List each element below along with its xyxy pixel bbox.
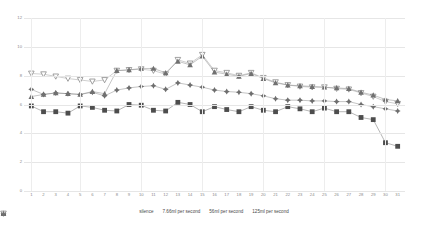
legend-label: 125ml per second [252, 210, 289, 215]
data-point-plus-diamond [163, 86, 169, 92]
data-point-filled-square [273, 109, 278, 114]
gridline-vertical [80, 18, 81, 191]
x-axis-tick-label: 4 [67, 193, 69, 197]
chart-legend: silence7.66ml per second56ml per second1… [0, 210, 428, 215]
series-56ml-per-second [29, 52, 401, 106]
data-point-plus-diamond [126, 85, 132, 91]
x-axis-tick-label: 18 [237, 193, 242, 197]
data-point-plus-diamond [175, 80, 181, 86]
data-point-filled-square [151, 108, 156, 113]
legend-label: 7.66ml per second [163, 210, 201, 215]
x-axis-tick-label: 11 [151, 193, 155, 197]
gridline-vertical [324, 18, 325, 191]
x-axis-tick-label: 1 [30, 193, 32, 197]
data-point-filled-square [53, 109, 58, 114]
data-point-filled-square [310, 109, 315, 114]
data-point-filled-square [102, 108, 107, 113]
data-point-filled-square [334, 109, 339, 114]
chart-container: 024681012 123456789101112131415161718192… [0, 0, 428, 236]
data-point-filled-square [346, 109, 351, 114]
gridline-vertical [385, 18, 386, 191]
data-point-plus-diamond [236, 89, 242, 95]
data-point-plus-diamond [224, 89, 230, 95]
x-axis-tick-label: 19 [249, 193, 254, 197]
x-axis-labels: 1234567891011121314151617181920212223242… [24, 193, 405, 203]
data-point-filled-square [371, 117, 376, 122]
x-axis-tick-label: 25 [322, 193, 327, 197]
x-axis-tick-label: 3 [55, 193, 57, 197]
gridline-vertical [141, 18, 142, 191]
data-point-filled-up-triangle [90, 89, 96, 94]
data-point-plus-diamond [309, 98, 315, 104]
data-point-filled-square [66, 111, 71, 116]
x-axis-tick-label: 5 [79, 193, 81, 197]
data-point-filled-square [114, 109, 119, 114]
y-axis-tick-label: 2 [2, 160, 22, 164]
x-axis-tick-label: 27 [346, 193, 351, 197]
y-axis-tick-label: 8 [2, 74, 22, 78]
x-axis-tick-label: 8 [116, 193, 118, 197]
x-axis-tick-label: 22 [285, 193, 290, 197]
gridline-vertical [202, 18, 203, 191]
data-point-plus-diamond [395, 108, 401, 114]
data-point-filled-square [359, 115, 364, 120]
x-axis-tick-label: 26 [334, 193, 339, 197]
x-axis-tick-label: 16 [212, 193, 217, 197]
gridline-vertical [263, 18, 264, 191]
legend-item-56ml-per-second[interactable]: 56ml per second [209, 210, 243, 215]
x-axis-tick-label: 30 [383, 193, 388, 197]
y-axis-labels: 024681012 [0, 18, 22, 191]
legend-label: silence [139, 210, 153, 215]
x-axis-tick-label: 12 [163, 193, 168, 197]
data-point-filled-square [224, 107, 229, 112]
gridline-vertical [31, 18, 32, 191]
x-axis-tick-label: 17 [224, 193, 229, 197]
data-point-filled-square [298, 106, 303, 111]
data-point-filled-square [41, 109, 46, 114]
x-axis-tick-label: 15 [200, 193, 205, 197]
y-axis-tick-label: 10 [2, 45, 22, 49]
data-point-plus-diamond [285, 97, 291, 103]
data-point-plus-diamond [150, 83, 156, 89]
series-line [31, 56, 397, 101]
x-axis-tick-label: 28 [359, 193, 364, 197]
y-axis-tick-label: 6 [2, 102, 22, 106]
data-point-plus-diamond [273, 96, 279, 102]
data-point-plus-diamond [212, 87, 218, 93]
x-axis-tick-label: 13 [176, 193, 181, 197]
x-axis-tick-label: 9 [128, 193, 130, 197]
x-axis-tick-label: 23 [298, 193, 303, 197]
data-point-plus-diamond [248, 91, 254, 97]
series-line [31, 55, 397, 104]
data-point-filled-square [90, 105, 95, 110]
x-axis-tick-label: 29 [371, 193, 376, 197]
x-axis-tick-label: 6 [91, 193, 93, 197]
data-point-filled-square [237, 109, 242, 114]
data-point-plus-diamond [114, 87, 120, 93]
y-axis-tick-label: 0 [2, 189, 22, 193]
data-point-plus-diamond [187, 82, 193, 88]
series-silence [29, 100, 400, 149]
x-axis-tick-label: 24 [310, 193, 315, 197]
legend-item-silence[interactable]: silence [139, 210, 153, 215]
y-axis-tick-label: 4 [2, 131, 22, 135]
x-axis-tick-label: 14 [188, 193, 193, 197]
data-point-filled-square [163, 109, 168, 114]
y-axis-tick-label: 12 [2, 16, 22, 20]
data-point-plus-diamond [297, 97, 303, 103]
x-axis-tick-label: 7 [103, 193, 105, 197]
plot-area [24, 18, 405, 191]
data-point-filled-up-triangle [1, 211, 7, 216]
legend-item-7-66ml-per-second[interactable]: 7.66ml per second [163, 210, 201, 215]
x-axis-tick-label: 10 [139, 193, 144, 197]
x-axis-tick-label: 31 [395, 193, 400, 197]
legend-item-125ml-per-second[interactable]: 125ml per second [252, 210, 289, 215]
legend-marker-filled-up-triangle-icon [0, 210, 7, 217]
legend-label: 56ml per second [209, 210, 243, 215]
data-point-open-down-triangle [90, 79, 96, 84]
x-axis-tick-label: 2 [42, 193, 44, 197]
data-point-filled-square [395, 144, 400, 149]
x-axis-tick-label: 21 [273, 193, 278, 197]
x-axis-tick-label: 20 [261, 193, 266, 197]
series-125ml-per-second [29, 53, 401, 103]
